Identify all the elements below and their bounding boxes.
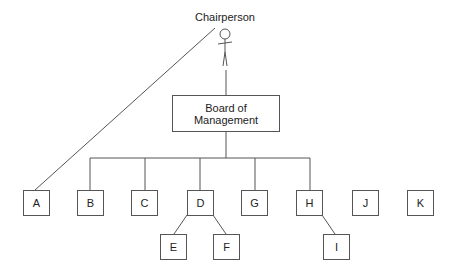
node-e: E [160, 234, 187, 260]
actor-label: Chairperson [190, 11, 260, 24]
node-g: G [241, 190, 268, 216]
board-label-line1: Board of [205, 102, 247, 114]
node-k: K [407, 190, 434, 216]
node-f: F [213, 234, 240, 260]
node-b: B [77, 190, 104, 216]
node-c: C [131, 190, 158, 216]
node-d: D [187, 190, 214, 216]
node-h: H [296, 190, 323, 216]
node-i: I [323, 234, 350, 260]
actor-head-icon [220, 29, 230, 39]
board-label-line2: Management [194, 114, 258, 126]
node-j: J [352, 190, 379, 216]
board-box: Board of Management [172, 95, 280, 132]
node-a: A [23, 190, 50, 216]
